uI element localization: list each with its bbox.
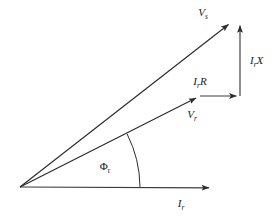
voltage-phasor-vs-line: [20, 25, 229, 188]
label-irx: IrX: [249, 54, 265, 69]
label-ir: Ir: [177, 197, 185, 212]
label-irx-tail: X: [256, 54, 265, 66]
label-phase-angle: Φr: [100, 160, 111, 175]
label-irr-tail: R: [199, 75, 207, 87]
label-irr: IrR: [192, 75, 207, 90]
phasor-diagram-figure: Vs Vr IrR IrX Ir Φr: [0, 0, 280, 219]
label-phi-sub: r: [108, 166, 111, 175]
label-vs-sub: s: [205, 12, 208, 21]
label-vs: Vs: [198, 6, 208, 21]
phasor-diagram-canvas: Vs Vr IrR IrX Ir Φr: [0, 0, 280, 219]
label-phi-base: Φ: [100, 160, 108, 172]
label-vr-sub: r: [194, 114, 197, 123]
current-phasor-ir-line: [20, 187, 209, 188]
phase-angle-arc: [127, 134, 140, 187]
label-ir-sub: r: [181, 203, 184, 212]
label-vr: Vr: [187, 108, 197, 123]
